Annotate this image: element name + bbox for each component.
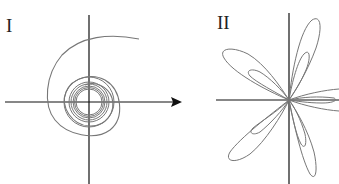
rose-curve <box>223 19 339 177</box>
figure-II: II <box>0 0 339 184</box>
rose-plot <box>0 0 339 184</box>
